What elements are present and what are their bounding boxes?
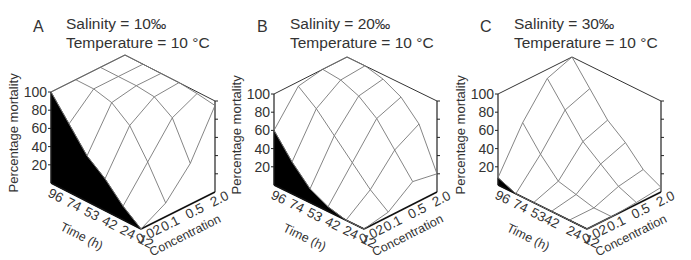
surface-grid-line-concentration [516,89,590,194]
panel-c: C Salinity = 30‰ Temperature = 10 °C 100… [460,0,690,260]
surface-plot: 10080604020Percentage mortality967453422… [230,0,460,260]
surface-grid-line-time [523,123,612,217]
box-edge [498,57,572,94]
surface-grid-line-concentration [551,143,625,212]
time-axis-label: Time (h) [281,221,329,254]
z-tick-label: 20 [254,159,270,175]
time-axis-label: Time (h) [58,220,105,253]
surface-grid-line-time [323,69,413,181]
z-tick-label: 40 [478,141,494,157]
z-tick-label: 80 [31,102,47,118]
panel-a: A Salinity = 10‰ Temperature = 10 °C 100… [0,0,230,260]
z-tick-label: 100 [471,86,495,102]
z-tick-label: 20 [31,157,47,173]
surface-grid-line-time [572,57,661,187]
z-tick-label: 20 [478,159,494,175]
surface-grid-line-time [347,57,437,174]
surface-grid-line-concentration [346,124,419,220]
z-axis-label: Percentage mortality [229,75,244,195]
panel-b: B Salinity = 20‰ Temperature = 10 °C 100… [230,0,460,260]
z-axis-label: Percentage mortality [6,73,21,193]
surface-grid-line-concentration [87,73,161,155]
z-tick-label: 60 [478,122,494,138]
surface-grid-line-time [125,55,215,106]
z-tick-label: 80 [254,104,270,120]
surface-grid-line-concentration [274,57,347,130]
z-tick-label: 60 [254,122,270,138]
time-tick-label: 5342 [528,205,562,232]
surface-plot: 10080604020Percentage mortality967453422… [0,0,230,260]
concentration-tick-label: 2.0 [654,188,678,210]
box-edge [572,57,661,101]
surface-grid-line-concentration [105,83,179,179]
z-tick-label: 80 [478,104,494,120]
concentration-tick-label: 2.0 [430,188,454,210]
z-tick-label: 60 [31,120,47,136]
z-tick-label: 40 [31,139,47,155]
concentration-tick-label: 2.0 [208,188,232,210]
surface-plot: 10080604020Percentage mortality967453422… [460,0,690,260]
z-tick-label: 40 [254,141,270,157]
z-axis-label: Percentage mortality [453,75,468,195]
z-tick-label: 100 [24,84,48,100]
surface-grid-line-concentration [328,97,401,207]
z-tick-label: 100 [247,86,271,102]
